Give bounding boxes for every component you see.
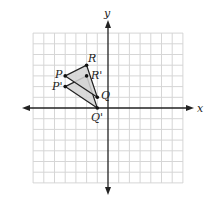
coordinate-plane: x y R P R' P' Q Q': [0, 0, 217, 201]
label-r-prime: R': [90, 69, 102, 82]
x-axis-right-arrow-icon: [186, 105, 194, 111]
vertex-p: [63, 74, 67, 78]
y-axis-down-arrow-icon: [105, 187, 111, 195]
vertex-q-prime: [96, 106, 100, 110]
axes: [27, 25, 189, 190]
label-q-prime: Q': [91, 111, 103, 124]
x-axis-left-arrow-icon: [22, 105, 30, 111]
y-axis-label: y: [103, 7, 111, 20]
vertex-q: [96, 96, 100, 100]
label-q: Q: [101, 89, 110, 102]
label-r: R: [87, 52, 96, 65]
vertex-p-prime: [63, 85, 67, 89]
label-p-prime: P': [51, 80, 62, 93]
y-axis-up-arrow-icon: [105, 20, 111, 28]
x-axis-label: x: [197, 102, 204, 115]
vertex-r-prime: [85, 74, 89, 78]
